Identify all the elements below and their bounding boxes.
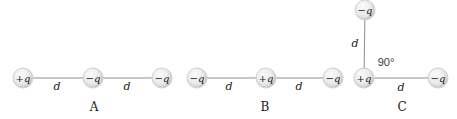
distance-label: d xyxy=(123,80,130,93)
charge-plus-q: +q xyxy=(13,68,34,89)
configuration-label-C: C xyxy=(397,100,406,114)
distance-label: d xyxy=(295,80,302,93)
charge-plus-q: +q xyxy=(256,68,277,89)
charge-minus-q: −q xyxy=(187,68,208,89)
charge-configurations-figure: dd+q−q−qAdd−q+q−qBdd90°−q+q−qC xyxy=(0,0,457,119)
charge-minus-q: −q xyxy=(428,68,449,89)
charge-minus-q: −q xyxy=(355,0,376,21)
distance-label: d xyxy=(53,80,60,93)
distance-label: d xyxy=(225,80,232,93)
configuration-label-B: B xyxy=(261,100,270,114)
configuration-label-A: A xyxy=(90,100,99,114)
charge-minus-q: −q xyxy=(152,68,173,89)
charge-plus-q: +q xyxy=(354,68,375,89)
charge-minus-q: −q xyxy=(323,68,344,89)
distance-label: d xyxy=(397,81,404,94)
charge-minus-q: −q xyxy=(83,68,104,89)
angle-label: 90° xyxy=(378,56,395,68)
distance-label: d xyxy=(351,37,358,50)
